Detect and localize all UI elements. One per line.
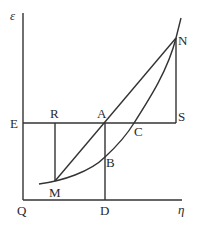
label-E: E — [10, 116, 18, 131]
label-C: C — [134, 124, 143, 139]
label-B: B — [106, 155, 115, 170]
label-Q: Q — [17, 203, 27, 218]
label-eta: η — [178, 202, 184, 217]
diagram-canvas: ε E R A S N C B M Q D η — [0, 0, 197, 227]
label-S: S — [178, 109, 185, 124]
label-N: N — [178, 33, 188, 48]
label-epsilon: ε — [10, 8, 16, 23]
chord-MN — [55, 38, 176, 181]
label-A: A — [97, 106, 107, 121]
label-D: D — [100, 203, 109, 218]
label-M: M — [49, 185, 61, 200]
label-R: R — [50, 106, 59, 121]
